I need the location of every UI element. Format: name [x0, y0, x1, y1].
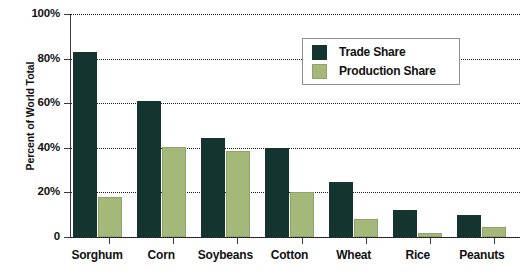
x-tick-mark — [237, 237, 238, 244]
bar-corn-production-share — [162, 147, 186, 237]
legend-item-production-share: Production Share — [312, 63, 436, 79]
x-axis-label-rice: Rice — [406, 248, 431, 262]
x-tick-mark — [366, 237, 367, 244]
y-tick-mark — [64, 59, 71, 60]
legend-swatch-icon — [312, 45, 327, 60]
y-tick-label: 40% — [18, 142, 60, 154]
chart-legend: Trade ShareProduction Share — [302, 38, 460, 85]
y-tick-mark — [64, 192, 71, 193]
x-axis-label-corn: Corn — [148, 248, 175, 262]
gridline — [71, 14, 520, 15]
bar-wheat-production-share — [354, 219, 378, 237]
y-tick-label: 20% — [18, 187, 60, 199]
y-tick-mark — [64, 103, 71, 104]
x-tick-mark — [494, 237, 495, 244]
x-axis-label-wheat: Wheat — [336, 248, 371, 262]
bar-soybeans-production-share — [226, 151, 250, 237]
y-tick-mark — [64, 237, 71, 238]
y-tick-label: 100% — [18, 8, 60, 20]
legend-label: Production Share — [339, 64, 436, 78]
bar-chart: Percent of World Total 100%80%60%40%20%0… — [0, 0, 530, 274]
x-tick-mark — [173, 237, 174, 244]
bar-soybeans-trade-share — [201, 138, 225, 237]
legend-swatch-icon — [312, 64, 327, 79]
gridline — [71, 237, 520, 238]
bar-corn-trade-share — [137, 101, 161, 237]
x-axis-label-soybeans: Soybeans — [198, 248, 253, 262]
y-tick-mark — [64, 14, 71, 15]
bar-rice-trade-share — [393, 210, 417, 237]
y-tick-label: 60% — [18, 97, 60, 109]
legend-label: Trade Share — [339, 45, 406, 59]
bar-cotton-production-share — [290, 192, 314, 237]
legend-item-trade-share: Trade Share — [312, 44, 406, 60]
y-tick-mark — [64, 148, 71, 149]
bar-sorghum-production-share — [98, 197, 122, 237]
y-axis-tick-labels: 100%80%60%40%20%0 — [18, 0, 60, 274]
y-tick-label: 80% — [18, 53, 60, 65]
x-tick-mark — [109, 237, 110, 244]
x-axis-label-sorghum: Sorghum — [71, 248, 122, 262]
bar-peanuts-production-share — [482, 227, 506, 237]
x-axis-label-peanuts: Peanuts — [459, 248, 504, 262]
bar-sorghum-trade-share — [73, 52, 97, 237]
y-tick-label: 0 — [18, 231, 60, 243]
x-axis-label-cotton: Cotton — [271, 248, 308, 262]
x-tick-mark — [430, 237, 431, 244]
bar-cotton-trade-share — [265, 148, 289, 237]
bar-peanuts-trade-share — [457, 215, 481, 237]
x-tick-mark — [302, 237, 303, 244]
bar-wheat-trade-share — [329, 182, 353, 237]
